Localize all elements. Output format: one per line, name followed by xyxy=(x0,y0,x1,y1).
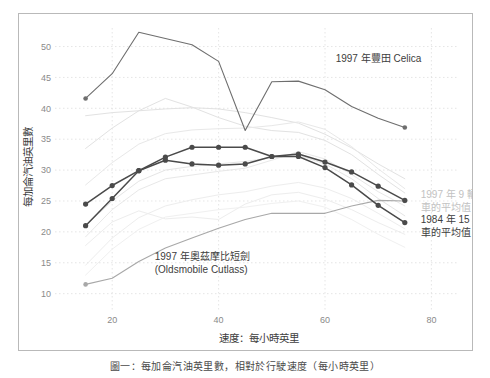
line-chart: 10152025303540455020406080 1997 年豐田 Celi… xyxy=(19,14,472,350)
series-background-vehicle-5 xyxy=(86,192,405,245)
y-tick-50: 50 xyxy=(41,42,51,52)
x-tick-20: 20 xyxy=(107,315,117,325)
figure-container: 10152025303540455020406080 1997 年豐田 Celi… xyxy=(0,0,490,378)
x-tick-60: 60 xyxy=(320,315,330,325)
x-axis-title: 速度：每小時英里 xyxy=(219,332,299,344)
y-tick-20: 20 xyxy=(41,227,51,237)
annotation-cutlass: 1997 年奧茲摩比短劍 xyxy=(155,250,250,262)
series-1984 年 15 輛車的平均值 xyxy=(83,154,407,228)
annotation-avg1997: 1997 年 9 輛 xyxy=(421,188,472,200)
x-tick-40: 40 xyxy=(214,315,224,325)
annotation-avg1984: 1984 年 15 輛 xyxy=(421,213,472,225)
y-tick-10: 10 xyxy=(41,289,51,299)
chart-plot-frame: 10152025303540455020406080 1997 年豐田 Celi… xyxy=(18,13,473,351)
figure-caption: 圖一：每加侖汽油英里數，相對於行駛速度（每小時英里） xyxy=(0,358,490,373)
axis-titles: 速度：每小時英里每加侖汽油英里數 xyxy=(22,126,299,344)
annotation-avg1997: 車的平均值 xyxy=(421,201,471,213)
y-tick-30: 30 xyxy=(41,165,51,175)
y-tick-45: 45 xyxy=(41,73,51,83)
y-tick-25: 25 xyxy=(41,196,51,206)
y-axis-title: 每加侖汽油英里數 xyxy=(22,126,34,207)
annotation-avg1984: 車的平均值 xyxy=(421,226,471,238)
x-tick-80: 80 xyxy=(426,315,436,325)
y-tick-40: 40 xyxy=(41,104,51,114)
grid-lines xyxy=(55,28,458,310)
y-tick-15: 15 xyxy=(41,258,51,268)
series-background-vehicle-3 xyxy=(86,122,405,189)
background-series-layer xyxy=(86,98,405,275)
annotation-celica: 1997 年豐田 Celica xyxy=(336,52,422,64)
annotation-cutlass: (Oldsmobile Cutlass) xyxy=(155,264,248,275)
series-1997 年 9 輛車的平均值 xyxy=(83,145,407,207)
y-tick-35: 35 xyxy=(41,134,51,144)
